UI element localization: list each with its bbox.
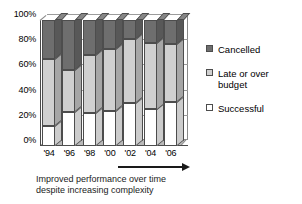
bar-segment-late-or-over-budget	[42, 59, 55, 126]
legend: CancelledLate or over budgetSuccessful	[206, 44, 300, 127]
bar-segment-late-or-over-budget	[62, 70, 75, 112]
x-tick-label: '94	[38, 148, 60, 159]
caption-line-2: despite increasing complexity	[36, 185, 206, 196]
bar-segment-successful	[83, 113, 96, 146]
bar-segment-late-or-over-budget	[144, 43, 157, 110]
bar-segment-cancelled	[103, 20, 116, 49]
bar-segment-cancelled	[42, 20, 55, 59]
y-tick-label: 20%	[0, 110, 36, 119]
y-tick-label: 60%	[0, 60, 36, 69]
chart-caption: Improved performance over time despite i…	[36, 174, 206, 196]
y-tick-label: 40%	[0, 85, 36, 94]
bar-segment-side	[96, 107, 103, 146]
bar-segment-side	[177, 38, 184, 102]
stacked-bar-chart: 0% 20% 40% 60% 80% 100% '94'96'98'00'02'…	[0, 0, 302, 204]
caption-line-1: Improved performance over time	[36, 174, 206, 185]
legend-swatch-icon	[206, 69, 213, 76]
bar-segment-late-or-over-budget	[83, 55, 96, 113]
bar-segment-late-or-over-budget	[164, 44, 177, 102]
bar-segment-side	[75, 65, 82, 112]
trend-arrow-icon	[118, 163, 190, 172]
bar-segment-side	[75, 14, 82, 70]
bar-segment-successful	[164, 102, 177, 146]
x-tick-label: '02	[119, 148, 141, 159]
plot-area	[40, 20, 188, 146]
x-axis: '94'96'98'00'02'04'06	[40, 148, 200, 162]
legend-swatch-icon	[206, 45, 213, 52]
bar-segment-side	[96, 14, 103, 55]
y-tick-label: 100%	[0, 10, 36, 19]
bar-segment-late-or-over-budget	[103, 49, 116, 111]
x-tick-label: '06	[160, 148, 182, 159]
bar-segment-cancelled	[164, 20, 177, 44]
bar-segment-side	[136, 33, 143, 103]
bar-segment-cancelled	[144, 20, 157, 43]
bar-segment-side	[177, 96, 184, 146]
bar-segment-side	[96, 49, 103, 113]
legend-item-cancelled: Cancelled	[206, 44, 300, 55]
legend-item-successful: Successful	[206, 103, 300, 114]
legend-label: Successful	[218, 103, 264, 114]
bar-segment-side	[136, 97, 143, 146]
legend-swatch-icon	[206, 104, 213, 111]
bar-segment-side	[55, 53, 62, 126]
bar-segment-side	[116, 105, 123, 146]
legend-label: Cancelled	[218, 44, 260, 55]
x-tick-label: '96	[58, 148, 80, 159]
y-axis: 0% 20% 40% 60% 80% 100%	[0, 14, 36, 148]
arrow-head	[182, 163, 190, 171]
y-tick-label: 80%	[0, 35, 36, 44]
bar-segment-cancelled	[123, 20, 136, 39]
x-tick-label: '00	[99, 148, 121, 159]
bar-segment-side	[75, 106, 82, 146]
legend-label: Late or over budget	[218, 68, 269, 90]
bar-segment-successful	[42, 126, 55, 146]
bar-segment-cancelled	[83, 20, 96, 55]
bar-segment-successful	[62, 112, 75, 146]
bar-segment-side	[116, 43, 123, 111]
bar-segment-late-or-over-budget	[123, 39, 136, 103]
bar-segment-successful	[123, 103, 136, 146]
bar-segment-successful	[103, 111, 116, 146]
bar-segment-side	[157, 104, 164, 146]
bar-segment-successful	[144, 109, 157, 146]
y-tick-label: 0%	[0, 136, 36, 145]
bar-segment-cancelled	[62, 20, 75, 70]
x-tick-label: '04	[140, 148, 162, 159]
bar-group	[40, 20, 188, 146]
legend-item-late-or-over-budget: Late or over budget	[206, 68, 300, 90]
arrow-shaft	[118, 166, 184, 168]
x-tick-label: '98	[79, 148, 101, 159]
bar-segment-side	[157, 37, 164, 110]
bar-segment-side	[55, 14, 62, 59]
